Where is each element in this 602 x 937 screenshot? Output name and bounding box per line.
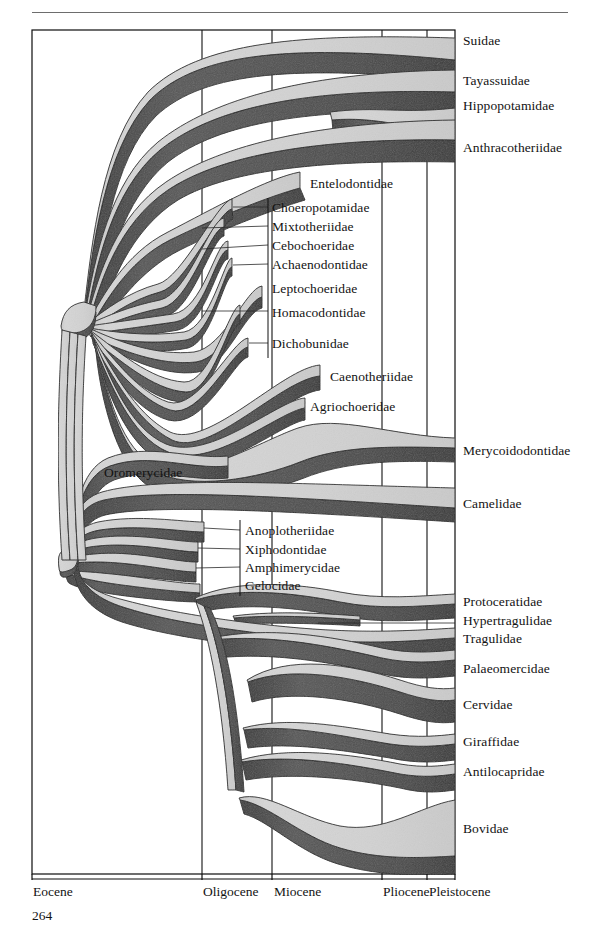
taxon-spindles — [58, 37, 455, 875]
taxon-label: Anoplotheriidae — [245, 524, 334, 538]
taxon-label: Merycoidodontidae — [463, 444, 570, 458]
taxon-label: Mixtotheriidae — [272, 220, 354, 234]
taxon-label: Cervidae — [463, 698, 513, 712]
page-folio: 264 — [32, 908, 52, 924]
taxon-label: Bovidae — [463, 822, 509, 836]
spindle-bovidae — [239, 797, 455, 875]
taxon-label: Oromerycidae — [104, 466, 182, 480]
taxon-label: Suidae — [463, 34, 500, 48]
spindle-diagram-figure: Suidae Tayassuidae Hippopotamidae Anthra… — [0, 0, 602, 937]
taxon-label: Palaeomercidae — [463, 662, 550, 676]
axis-label-miocene: Miocene — [274, 884, 321, 900]
taxon-label: Gelocidae — [245, 579, 301, 593]
taxon-label: Dichobunidae — [272, 337, 349, 351]
taxon-label: Xiphodontidae — [245, 543, 327, 557]
descent-strands — [58, 330, 86, 560]
axis-label-pleistocene: Pleistocene — [429, 884, 490, 900]
taxon-label: Amphimerycidae — [245, 561, 340, 575]
taxon-label: Choeropotamidae — [272, 201, 369, 215]
taxon-label: Caenotheriidae — [330, 370, 413, 384]
axis-label-oligocene: Oligocene — [203, 884, 258, 900]
axis-label-eocene: Eocene — [33, 884, 73, 900]
axis-label-pliocene: Pliocene — [383, 884, 430, 900]
taxon-label: Protoceratidae — [463, 595, 542, 609]
taxon-label: Agriochoeridae — [310, 400, 395, 414]
taxon-label: Achaenodontidae — [272, 258, 368, 272]
taxon-label: Hypertragulidae — [463, 614, 552, 628]
taxon-label: Camelidae — [463, 497, 522, 511]
taxon-label: Homacodontidae — [272, 306, 366, 320]
taxon-label: Leptochoeridae — [272, 282, 357, 296]
epoch-ticks — [32, 874, 455, 880]
taxon-label: Hippopotamidae — [463, 99, 554, 113]
figure-page: Suidae Tayassuidae Hippopotamidae Anthra… — [0, 0, 602, 937]
taxon-label: Cebochoeridae — [272, 239, 354, 253]
taxon-label: Giraffidae — [463, 735, 519, 749]
taxon-label: Antilocapridae — [463, 765, 545, 779]
taxon-label: Tragulidae — [463, 632, 522, 646]
taxon-label: Entelodontidae — [310, 177, 393, 191]
taxon-label: Anthracotheriidae — [463, 141, 562, 155]
taxon-label: Tayassuidae — [463, 74, 530, 88]
